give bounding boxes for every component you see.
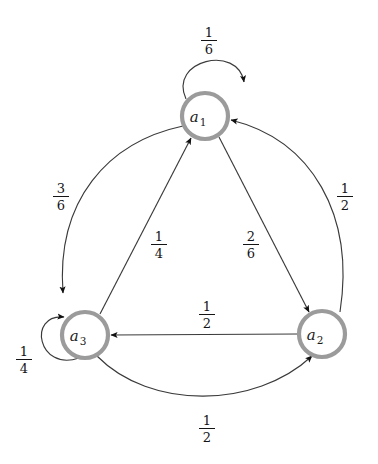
edge-a2-to-a3 <box>111 334 298 335</box>
edge-label-a1-a2: 2 6 <box>240 230 262 260</box>
edge-label-denominator: 2 <box>334 198 356 212</box>
state-transition-diagram: a1 a2 a3 1 6 3 6 1 2 1 4 2 6 1 <box>0 0 378 464</box>
edge-label-denominator: 6 <box>50 198 72 212</box>
node-a3[interactable]: a3 <box>62 312 108 358</box>
edge-label-denominator: 4 <box>13 361 35 375</box>
fraction-bar <box>199 428 215 429</box>
edge-label-denominator: 6 <box>198 42 220 56</box>
edge-label-denominator: 2 <box>196 430 218 444</box>
edge-label-numerator: 1 <box>334 182 356 196</box>
fraction-bar <box>16 359 32 360</box>
edge-a1-to-a2 <box>219 137 309 312</box>
edge-label-a1-a3: 3 6 <box>50 182 72 212</box>
node-a2[interactable]: a2 <box>299 311 345 357</box>
edge-label-numerator: 1 <box>198 26 220 40</box>
edge-label-numerator: 1 <box>148 230 170 244</box>
node-a1[interactable]: a1 <box>182 93 228 139</box>
edge-a3-to-a2 <box>97 356 312 396</box>
edge-label-numerator: 3 <box>50 182 72 196</box>
edge-label-a3-a3: 1 4 <box>13 345 35 375</box>
edge-label-denominator: 4 <box>148 246 170 260</box>
edge-label-numerator: 1 <box>196 300 218 314</box>
edge-label-a2-a1: 1 2 <box>334 182 356 212</box>
fraction-bar <box>201 40 217 41</box>
fraction-bar <box>151 244 167 245</box>
edge-label-numerator: 1 <box>13 345 35 359</box>
edge-label-numerator: 2 <box>240 230 262 244</box>
edge-label-numerator: 1 <box>196 414 218 428</box>
fraction-bar <box>337 196 353 197</box>
edge-label-denominator: 6 <box>240 246 262 260</box>
edge-label-a2-a3: 1 2 <box>196 300 218 330</box>
edge-label-denominator: 2 <box>196 316 218 330</box>
edge-a1-to-a3 <box>62 126 183 293</box>
edge-label-a1-a1: 1 6 <box>198 26 220 56</box>
edge-a3-to-a1 <box>100 138 191 314</box>
graph-canvas: a1 a2 a3 <box>0 0 378 464</box>
fraction-bar <box>53 196 69 197</box>
fraction-bar <box>199 314 215 315</box>
edge-label-a3-a1: 1 4 <box>148 230 170 260</box>
edge-a2-to-a1 <box>231 120 343 312</box>
edge-label-a3-a2: 1 2 <box>196 414 218 444</box>
fraction-bar <box>243 244 259 245</box>
